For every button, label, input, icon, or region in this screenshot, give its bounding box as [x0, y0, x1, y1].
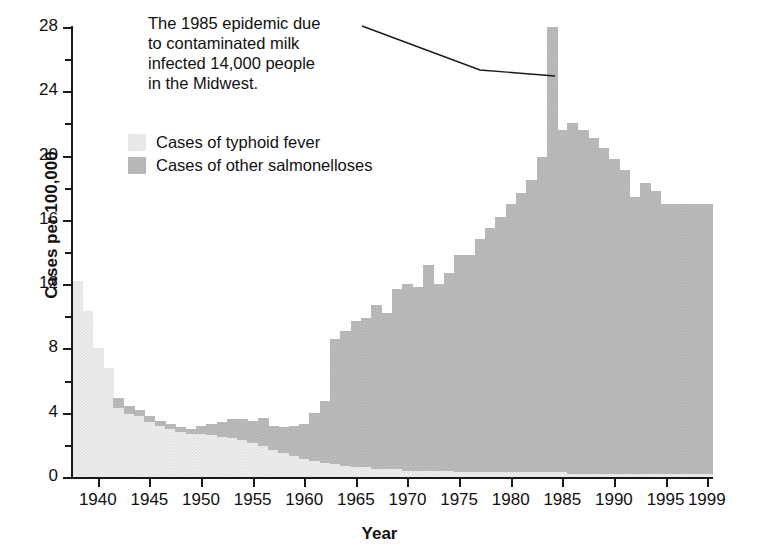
y-axis-tick-minor [65, 252, 72, 254]
x-axis-tick [201, 478, 203, 487]
bar-segment-typhoid-fever [175, 432, 186, 477]
legend-label-typhoid: Cases of typhoid fever [156, 133, 320, 152]
bar-segment-other-salmonelloses [681, 204, 692, 474]
x-axis-title: Year [0, 524, 759, 544]
bar-segment-other-salmonelloses [382, 313, 393, 469]
annotation-line-3: infected 14,000 people [148, 53, 378, 73]
bar-segment-other-salmonelloses [537, 157, 548, 472]
plot-area [72, 27, 712, 477]
y-axis-tick-label: 4 [24, 402, 58, 422]
legend-item-other-salmonelloses: Cases of other salmonelloses [128, 154, 372, 177]
bar-segment-typhoid-fever [392, 469, 403, 477]
bar-column [609, 159, 620, 477]
bar-column [93, 348, 104, 477]
y-axis-title: Cases per 100,000 [42, 115, 62, 335]
y-axis-tick-major [63, 220, 72, 222]
bar-segment-other-salmonelloses [671, 204, 682, 474]
bar-segment-other-salmonelloses [392, 289, 403, 469]
bar-column [330, 339, 341, 477]
bar-column [516, 193, 527, 477]
x-axis-tick [407, 478, 409, 487]
bar-column [82, 311, 93, 477]
bar-segment-typhoid-fever [217, 437, 228, 477]
x-axis-tick-label: 1940 [79, 490, 117, 510]
bar-segment-other-salmonelloses [475, 239, 486, 472]
bar-segment-other-salmonelloses [650, 191, 661, 474]
bar-column [506, 204, 517, 477]
bar-segment-typhoid-fever [340, 466, 351, 477]
bar-segment-typhoid-fever [330, 464, 341, 477]
y-axis-tick-minor [65, 381, 72, 383]
bar-segment-typhoid-fever [371, 469, 382, 477]
bar-column [485, 228, 496, 477]
x-axis-tick-label: 1975 [440, 490, 478, 510]
bar-segment-typhoid-fever [351, 467, 362, 477]
bar-column [320, 401, 331, 477]
y-axis-tick-label: 28 [24, 16, 58, 36]
bar-column [278, 427, 289, 477]
bar-segment-other-salmonelloses [454, 255, 465, 472]
bar-column [186, 429, 197, 477]
bar-column [309, 413, 320, 477]
bar-segment-other-salmonelloses [485, 228, 496, 472]
bar-segment-typhoid-fever [278, 453, 289, 477]
bar-segment-typhoid-fever [103, 368, 114, 477]
bar-segment-typhoid-fever [155, 426, 166, 477]
bar-segment-other-salmonelloses [691, 204, 702, 474]
legend-label-other-salmonelloses: Cases of other salmonelloses [156, 156, 372, 175]
x-axis-tick-label: 1980 [492, 490, 530, 510]
bar-column [299, 424, 310, 477]
bar-column [578, 130, 589, 477]
x-axis-tick [98, 478, 100, 487]
y-axis-tick-minor [65, 123, 72, 125]
bar-segment-typhoid-fever [227, 438, 238, 477]
x-axis-tick [707, 478, 709, 487]
bar-segment-typhoid-fever [196, 434, 207, 477]
x-axis-tick [253, 478, 255, 487]
bar-segment-other-salmonelloses [413, 287, 424, 470]
x-axis-tick [304, 478, 306, 487]
bar-segment-typhoid-fever [93, 348, 104, 477]
y-axis-tick-minor [65, 445, 72, 447]
bar-column [351, 321, 362, 477]
bar-segment-other-salmonelloses [526, 180, 537, 473]
bar-segment-other-salmonelloses [609, 159, 620, 474]
bar-column [464, 255, 475, 477]
x-axis-tick [459, 478, 461, 487]
bar-column [268, 426, 279, 477]
bar-column [289, 426, 300, 477]
bar-column [206, 424, 217, 477]
bar-segment-other-salmonelloses [237, 419, 248, 440]
y-axis-tick-label: 8 [24, 337, 58, 357]
bar-segment-typhoid-fever [247, 443, 258, 477]
x-axis-tick-label: 1955 [234, 490, 272, 510]
bar-column [640, 183, 651, 477]
bar-column [103, 368, 114, 477]
bar-column [247, 421, 258, 477]
x-axis-tick-label: 1945 [130, 490, 168, 510]
bar-segment-typhoid-fever [237, 440, 248, 477]
bar-segment-other-salmonelloses [247, 421, 258, 444]
bar-segment-other-salmonelloses [557, 130, 568, 472]
bar-segment-other-salmonelloses [217, 422, 228, 436]
bar-column [217, 422, 228, 477]
bar-segment-other-salmonelloses [113, 398, 124, 408]
bar-segment-typhoid-fever [361, 467, 372, 477]
y-axis-tick-major [63, 27, 72, 29]
bar-column [340, 331, 351, 477]
bar-segment-other-salmonelloses [227, 419, 238, 438]
bar-segment-other-salmonelloses [495, 217, 506, 473]
bar-segment-other-salmonelloses [340, 331, 351, 466]
bar-segment-other-salmonelloses [299, 424, 310, 459]
bar-column [134, 410, 145, 478]
bar-segment-other-salmonelloses [598, 148, 609, 474]
annotation-line-2: to contaminated milk [148, 33, 378, 53]
annotation-line-1: The 1985 epidemic due [148, 13, 378, 33]
bar-column [671, 204, 682, 477]
bar-segment-typhoid-fever [309, 461, 320, 477]
bar-column [392, 289, 403, 477]
bar-segment-other-salmonelloses [196, 426, 207, 434]
bar-segment-other-salmonelloses [206, 424, 217, 435]
bar-column [475, 239, 486, 477]
bar-column [619, 170, 630, 477]
